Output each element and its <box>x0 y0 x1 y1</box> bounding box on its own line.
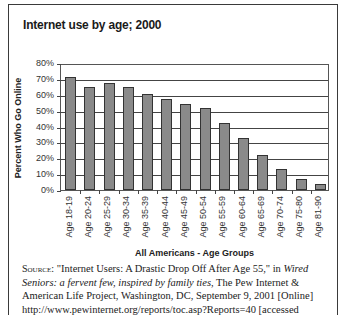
x-tick-label: Age 35-39 <box>140 196 150 242</box>
y-tick-label: 20% <box>26 153 54 163</box>
y-tick-label: 50% <box>26 106 54 116</box>
bar <box>200 108 211 190</box>
chart-title: Internet use by age; 2000 <box>23 17 161 32</box>
x-tick-label: Age 40-44 <box>160 196 170 242</box>
gridline <box>61 128 328 129</box>
x-tick-mark <box>215 190 216 194</box>
y-tick-mark <box>57 191 61 192</box>
x-tick-label: Age 45-49 <box>179 196 189 242</box>
gridline <box>61 96 328 97</box>
x-tick-label: Age 20-24 <box>83 196 93 242</box>
x-tick-label: Age 65-69 <box>256 196 266 242</box>
y-tick-mark <box>57 80 61 81</box>
bar <box>276 169 287 190</box>
gridline <box>61 159 328 160</box>
x-tick-label: Age 25-29 <box>102 196 112 242</box>
x-tick-mark <box>157 190 158 194</box>
bar <box>219 123 230 190</box>
y-tick-mark <box>57 143 61 144</box>
x-tick-label: Age 55-59 <box>217 196 227 242</box>
bar <box>104 83 115 190</box>
x-tick-label: Age 18-19 <box>64 196 74 242</box>
y-axis-label: Percent Who Go Online <box>13 68 25 188</box>
y-tick-label: 40% <box>26 122 54 132</box>
y-tick-label: 0% <box>26 185 54 195</box>
gridline <box>61 143 328 144</box>
bar <box>180 104 191 190</box>
y-tick-label: 60% <box>26 90 54 100</box>
bar <box>142 94 153 190</box>
plot-area <box>60 64 329 191</box>
y-tick-mark <box>57 112 61 113</box>
gridline <box>61 175 328 176</box>
x-tick-label: Age 70-74 <box>275 196 285 242</box>
source-text-1: "Internet Users: A Drastic Drop Off Afte… <box>54 263 283 274</box>
x-tick-mark <box>80 190 81 194</box>
y-tick-label: 30% <box>26 137 54 147</box>
x-tick-mark <box>292 190 293 194</box>
x-tick-mark <box>272 190 273 194</box>
x-tick-mark <box>119 190 120 194</box>
bar <box>65 77 76 190</box>
x-tick-mark <box>196 190 197 194</box>
x-axis-label: All Americans - Age Groups <box>60 248 329 258</box>
y-tick-label: 80% <box>26 58 54 68</box>
x-tick-label: Age 75-80 <box>294 196 304 242</box>
x-tick-mark <box>138 190 139 194</box>
x-tick-label: Age 50-54 <box>198 196 208 242</box>
y-tick-mark <box>57 96 61 97</box>
gridline <box>61 112 328 113</box>
x-tick-label: Age 60-64 <box>237 196 247 242</box>
x-tick-mark <box>311 190 312 194</box>
x-tick-mark <box>99 190 100 194</box>
y-tick-label: 10% <box>26 169 54 179</box>
bar <box>123 87 134 190</box>
bar <box>84 87 95 190</box>
y-tick-label: 70% <box>26 74 54 84</box>
y-tick-mark <box>57 159 61 160</box>
y-tick-mark <box>57 64 61 65</box>
x-tick-mark <box>176 190 177 194</box>
x-tick-label: Age 30-34 <box>121 196 131 242</box>
bar <box>257 155 268 190</box>
bar <box>161 99 172 190</box>
x-tick-label: Age 81-90 <box>313 196 323 242</box>
bar <box>296 179 307 190</box>
y-tick-mark <box>57 128 61 129</box>
source-label: Source: <box>22 263 54 274</box>
x-tick-mark <box>234 190 235 194</box>
y-tick-mark <box>57 175 61 176</box>
gridline <box>61 80 328 81</box>
source-citation: Source: "Internet Users: A Drastic Drop … <box>22 262 334 315</box>
x-tick-mark <box>253 190 254 194</box>
bar <box>315 184 326 190</box>
bar <box>238 138 249 190</box>
